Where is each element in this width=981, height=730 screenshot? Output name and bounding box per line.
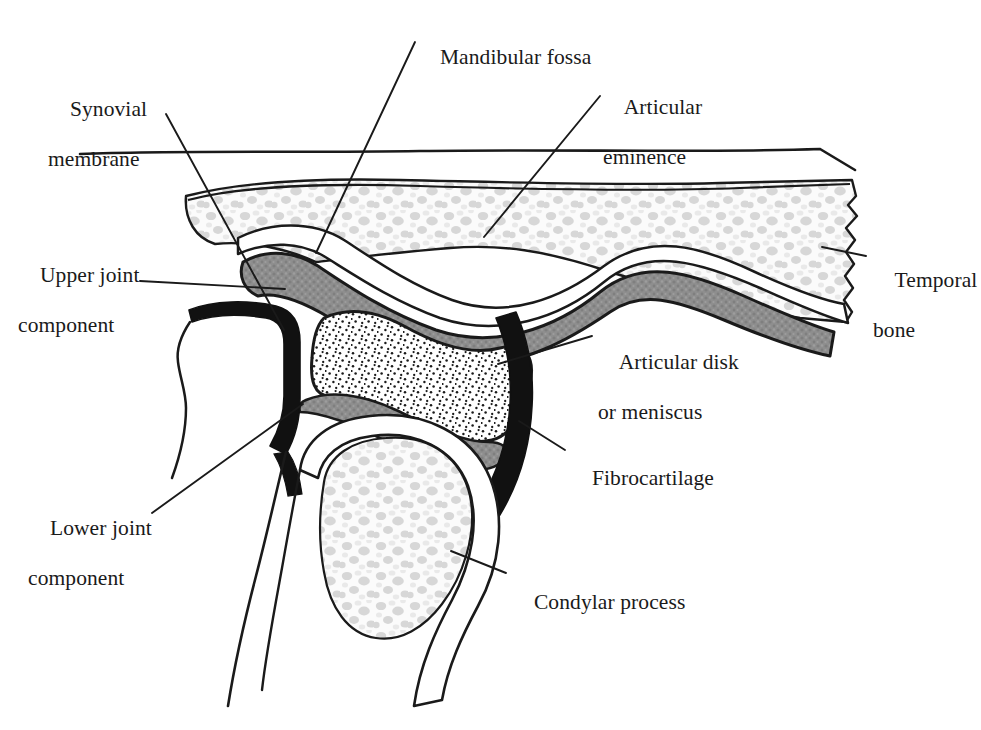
- label-mandibular-fossa: Mandibular fossa: [418, 20, 591, 95]
- label-articular-eminence: Articular eminence: [603, 70, 702, 220]
- figure-canvas: Mandibular fossa Synovial membrane Artic…: [0, 0, 981, 730]
- label-synovial-membrane: Synovial membrane: [48, 72, 147, 222]
- label-upper-joint-component: Upper joint component: [18, 238, 140, 388]
- label-temporal-bone: Temporal bone: [873, 243, 977, 393]
- label-fibrocartilage: Fibrocartilage: [570, 441, 714, 516]
- label-lower-joint-component: Lower joint component: [28, 491, 152, 641]
- label-condylar-process: Condylar process: [512, 565, 685, 640]
